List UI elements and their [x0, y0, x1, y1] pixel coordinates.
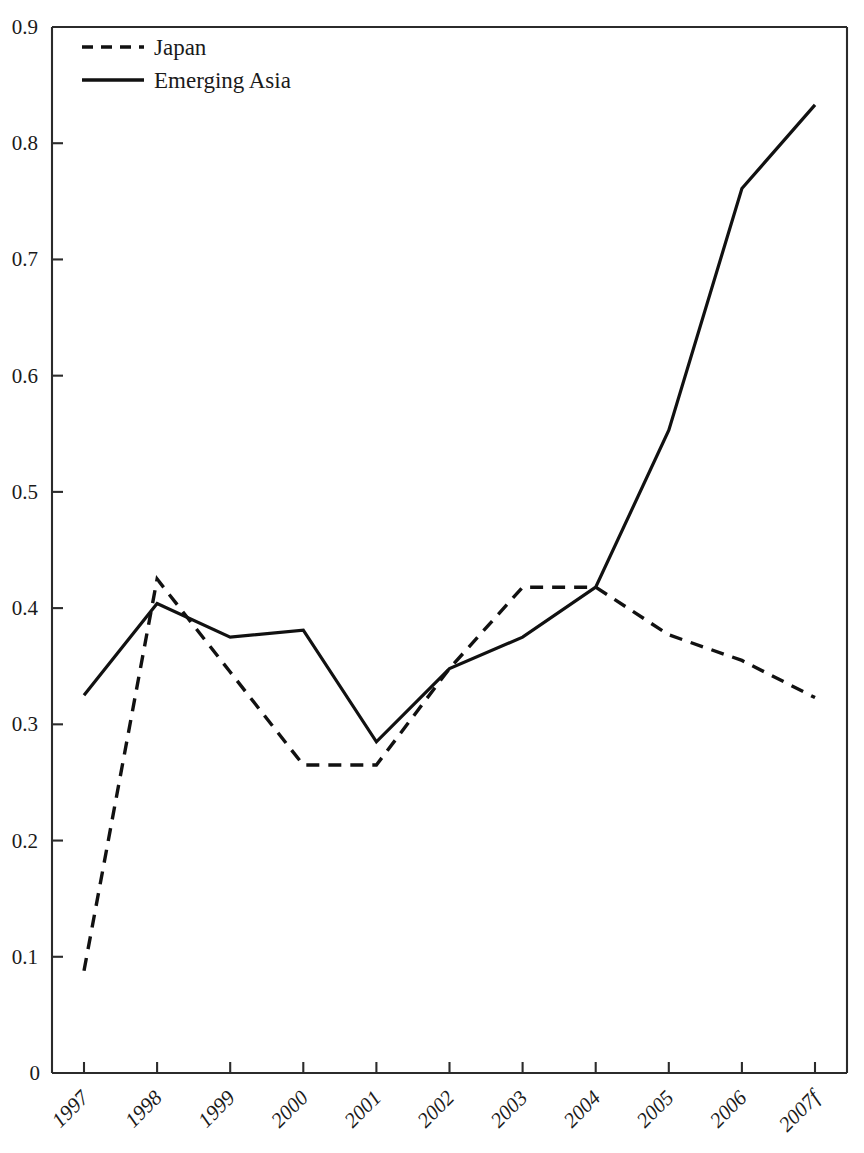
y-tick-label-0.5: 0.5: [12, 480, 38, 504]
y-tick-label-0.8: 0.8: [12, 131, 38, 155]
chart-container: 00.10.20.30.40.50.60.70.80.9 19971998199…: [0, 0, 864, 1153]
y-tick-label-0.9: 0.9: [12, 15, 38, 39]
y-tick-label-0.1: 0.1: [12, 945, 38, 969]
y-tick-label-0.7: 0.7: [12, 247, 38, 271]
y-tick-label-0.3: 0.3: [12, 712, 38, 736]
y-tick-label-0.6: 0.6: [12, 364, 38, 388]
legend-label-emerging-asia: Emerging Asia: [154, 68, 291, 93]
chart-background: [0, 0, 864, 1153]
y-tick-label-0: 0: [30, 1061, 41, 1085]
line-chart: 00.10.20.30.40.50.60.70.80.9 19971998199…: [0, 0, 864, 1153]
legend-label-japan: Japan: [154, 35, 207, 60]
y-tick-label-0.2: 0.2: [12, 829, 38, 853]
y-tick-label-0.4: 0.4: [12, 596, 39, 620]
